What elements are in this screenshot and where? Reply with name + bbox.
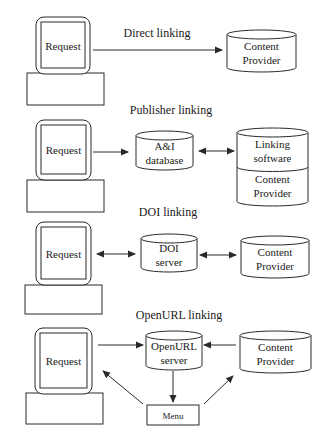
request-computer-icon: Request xyxy=(25,222,102,314)
section-title: Publisher linking xyxy=(130,103,212,117)
node-ls: LinkingsoftwareContentProvider xyxy=(237,128,308,206)
section-doi: DOI linkingRequestDOIserverContentProvid… xyxy=(25,205,309,314)
cylinder-top xyxy=(237,128,308,137)
section-openurl: OpenURL linkingRequestOpenURLserverConte… xyxy=(26,308,311,425)
node-ou: OpenURLserver xyxy=(146,331,202,370)
request-label: Request xyxy=(46,355,81,367)
request-label: Request xyxy=(45,40,80,52)
section-title: DOI linking xyxy=(139,205,197,219)
node-label-line2: database xyxy=(146,154,184,166)
node-ai: A&Idatabase xyxy=(136,131,193,170)
node-label-line1: A&I xyxy=(154,140,175,152)
node-label-line4: Provider xyxy=(254,187,292,199)
request-label: Request xyxy=(46,144,81,156)
cylinder-top xyxy=(227,30,296,39)
computer-base xyxy=(27,180,104,212)
computer-base xyxy=(26,393,103,424)
request-computer-icon: Request xyxy=(27,17,104,105)
node-cp4: ContentProvider xyxy=(240,331,311,373)
node-label-line1: Linking xyxy=(255,138,290,150)
cylinder-top xyxy=(240,331,311,340)
section-title: Direct linking xyxy=(124,26,191,40)
linking-models-diagram: Direct linkingRequestContentProviderPubl… xyxy=(0,0,320,439)
node-label-line1: Content xyxy=(258,341,293,353)
node-label-line2: Provider xyxy=(243,54,281,66)
node-doi: DOIserver xyxy=(141,234,197,272)
node-cp1: ContentProvider xyxy=(227,30,296,72)
section-direct: Direct linkingRequestContentProvider xyxy=(27,17,296,105)
computer-base xyxy=(25,285,102,314)
menu-label: Menu xyxy=(163,411,184,421)
node-label-line1: Content xyxy=(258,246,293,258)
node-label-line1: Content xyxy=(244,40,279,52)
node-label-line1: DOI xyxy=(159,242,179,254)
section-publisher: Publisher linkingRequestA&IdatabaseLinki… xyxy=(27,103,308,212)
node-cp3: ContentProvider xyxy=(241,236,309,278)
node-label-line1: OpenURL xyxy=(151,340,197,352)
arrow xyxy=(204,376,233,404)
computer-base xyxy=(27,73,104,105)
cylinder-top xyxy=(241,236,309,245)
arrow xyxy=(103,371,143,404)
node-menu: Menu xyxy=(147,405,199,425)
node-label-line2: Provider xyxy=(256,260,294,272)
request-computer-icon: Request xyxy=(27,120,104,212)
request-computer-icon: Request xyxy=(26,328,103,424)
request-label: Request xyxy=(46,248,81,260)
node-label-line2: Provider xyxy=(257,355,295,367)
node-label-line3: Content xyxy=(255,173,290,185)
node-label-line2: server xyxy=(156,256,183,268)
node-label-line2: server xyxy=(161,354,188,366)
section-title: OpenURL linking xyxy=(136,308,223,322)
node-label-line2: software xyxy=(254,152,292,164)
